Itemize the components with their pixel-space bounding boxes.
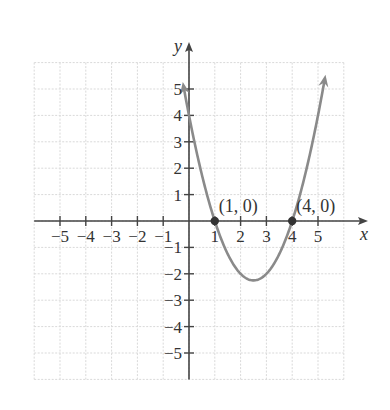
- y-tick-label: −4: [164, 318, 183, 337]
- x-tick-label: −4: [77, 227, 96, 246]
- y-tick-label: −3: [164, 291, 182, 310]
- x-tick-label: 2: [236, 227, 245, 246]
- y-tick-label: −1: [164, 238, 182, 257]
- x-tick-label: 3: [262, 227, 271, 246]
- parabola-chart: (1, 0)(4, 0) −5−4−3−2−112345−5−4−3−2−112…: [0, 0, 390, 410]
- x-intercept-point: [288, 217, 296, 225]
- y-tick-label: 4: [174, 106, 183, 125]
- x-tick-label: −3: [103, 227, 121, 246]
- x-tick-label: 5: [314, 227, 323, 246]
- x-tick-label: 1: [211, 227, 220, 246]
- x-tick-label: −2: [128, 227, 146, 246]
- y-tick-label: 3: [174, 133, 183, 152]
- parabola-path: [184, 81, 325, 281]
- x-tick-label: 4: [288, 227, 297, 246]
- y-tick-label: 2: [174, 159, 183, 178]
- y-tick-label: 5: [174, 80, 183, 99]
- y-axis-title: y: [172, 36, 182, 56]
- parabola-curve: [180, 75, 328, 281]
- y-tick-label: −2: [164, 265, 182, 284]
- point-label: (1, 0): [219, 196, 258, 217]
- x-axis-title: x: [359, 224, 368, 244]
- point-label: (4, 0): [296, 196, 335, 217]
- x-intercept-point: [211, 217, 219, 225]
- x-tick-label: −5: [51, 227, 69, 246]
- y-tick-label: 1: [174, 186, 183, 205]
- y-tick-label: −5: [164, 344, 182, 363]
